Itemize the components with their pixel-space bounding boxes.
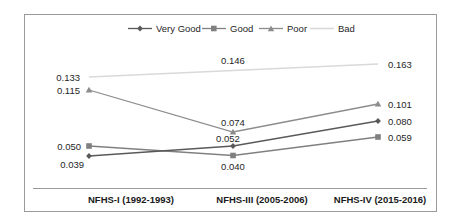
data-point-marker — [375, 118, 381, 124]
legend-label-bad: Bad — [338, 23, 355, 34]
x-axis-tick-label: NFHS-I (1992-1993) — [88, 194, 174, 205]
data-label: 0.080 — [388, 116, 412, 127]
legend-label-poor: Poor — [287, 23, 307, 34]
data-point-marker — [86, 153, 92, 159]
data-point-marker — [375, 101, 382, 107]
data-labels-category-3: 0.163 0.101 0.080 0.059 — [388, 59, 412, 143]
x-axis-tick-label: NFHS-IV (2015-2016) — [334, 194, 426, 205]
chart-container: Very Good Good Poor Bad — [0, 0, 452, 220]
legend-item-good[interactable]: Good — [202, 23, 253, 34]
data-labels-category-1: 0.133 0.115 0.050 0.039 — [56, 72, 84, 171]
data-label: 0.133 — [56, 72, 80, 83]
legend-label-good: Good — [230, 23, 253, 34]
chart-legend: Very Good Good Poor Bad — [128, 23, 355, 34]
data-label: 0.163 — [388, 59, 412, 70]
legend-item-very-good[interactable]: Very Good — [128, 23, 201, 34]
legend-item-poor[interactable]: Poor — [259, 23, 307, 34]
data-label: 0.059 — [388, 132, 412, 143]
data-label: 0.050 — [57, 141, 81, 152]
data-label: 0.039 — [60, 159, 84, 170]
x-axis-tick-label: NFHS-III (2005-2006) — [216, 194, 307, 205]
data-point-marker — [86, 143, 92, 149]
diamond-marker-icon — [137, 26, 143, 32]
data-label: 0.052 — [216, 133, 240, 144]
data-label: 0.074 — [221, 117, 245, 128]
x-axis-category-labels: NFHS-I (1992-1993) NFHS-III (2005-2006) … — [88, 194, 426, 205]
data-point-marker — [375, 134, 381, 140]
square-marker-icon — [211, 26, 217, 32]
data-point-marker — [230, 153, 236, 159]
data-label: 0.115 — [57, 85, 80, 96]
legend-item-bad[interactable]: Bad — [310, 23, 355, 34]
legend-label-very-good: Very Good — [156, 23, 201, 34]
line-chart-svg: Very Good Good Poor Bad — [0, 0, 452, 220]
data-label: 0.146 — [221, 55, 245, 66]
data-label: 0.101 — [388, 99, 412, 110]
data-label: 0.040 — [221, 161, 245, 172]
data-point-marker — [86, 87, 93, 93]
